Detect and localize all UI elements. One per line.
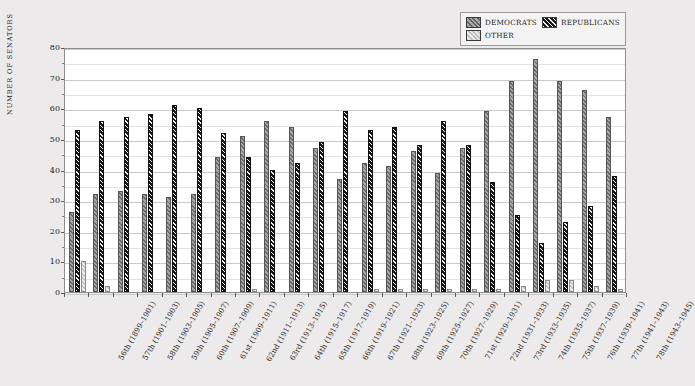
bar-dem[interactable] — [386, 166, 391, 292]
bar-dem[interactable] — [337, 179, 342, 292]
bar-rep[interactable] — [563, 222, 568, 292]
legend-item-democrats[interactable]: DEMOCRATS — [466, 17, 538, 28]
bar-group — [236, 49, 260, 292]
x-tick — [284, 293, 285, 297]
bar-oth[interactable] — [618, 289, 623, 292]
bar-dem[interactable] — [191, 194, 196, 292]
bar-dem[interactable] — [313, 148, 318, 292]
bar-oth[interactable] — [374, 289, 379, 292]
bar-group — [187, 49, 211, 292]
bar-dem[interactable] — [606, 117, 611, 292]
legend-row-primary: DEMOCRATS REPUBLICANS — [466, 17, 620, 28]
bar-oth[interactable] — [569, 280, 574, 292]
bar-dem[interactable] — [69, 212, 74, 292]
x-tick — [137, 293, 138, 297]
bar-oth[interactable] — [472, 289, 477, 292]
x-tick — [162, 293, 163, 297]
bar-oth[interactable] — [423, 289, 428, 292]
bar-dem[interactable] — [289, 127, 294, 292]
y-tick-label: 0 — [40, 289, 60, 297]
bar-dem[interactable] — [582, 90, 587, 292]
bar-dem[interactable] — [166, 197, 171, 292]
x-tick — [64, 293, 65, 297]
y-tick-label: 60 — [40, 105, 60, 113]
bar-oth[interactable] — [594, 286, 599, 292]
bar-rep[interactable] — [515, 215, 520, 292]
bar-group — [114, 49, 138, 292]
bar-dem[interactable] — [509, 81, 514, 292]
x-tick — [602, 293, 603, 297]
bar-oth[interactable] — [81, 261, 86, 292]
bar-rep[interactable] — [490, 182, 495, 292]
bar-dem[interactable] — [240, 136, 245, 292]
bar-rep[interactable] — [148, 114, 153, 292]
chart-legend: DEMOCRATS REPUBLICANS OTHER — [460, 12, 626, 46]
x-tick — [333, 293, 334, 297]
bar-rep[interactable] — [612, 176, 617, 292]
bar-oth[interactable] — [105, 286, 110, 292]
bar-group — [578, 49, 602, 292]
bar-dem[interactable] — [435, 173, 440, 292]
y-tick-label: 10 — [40, 258, 60, 266]
bar-rep[interactable] — [295, 163, 300, 292]
legend-item-republicans[interactable]: REPUBLICANS — [542, 17, 620, 28]
bar-dem[interactable] — [557, 81, 562, 292]
bar-group — [212, 49, 236, 292]
bar-oth[interactable] — [398, 289, 403, 292]
bar-dem[interactable] — [533, 59, 538, 292]
bar-dem[interactable] — [362, 163, 367, 292]
bar-oth[interactable] — [521, 286, 526, 292]
bar-group — [138, 49, 162, 292]
bar-dem[interactable] — [93, 194, 98, 292]
bar-dem[interactable] — [460, 148, 465, 292]
bar-rep[interactable] — [75, 130, 80, 292]
bar-rep[interactable] — [270, 170, 275, 293]
bar-rep[interactable] — [221, 133, 226, 292]
bar-oth[interactable] — [496, 289, 501, 292]
y-tick-label: 70 — [40, 75, 60, 83]
legend-label-republicans: REPUBLICANS — [561, 18, 620, 27]
legend-row-secondary: OTHER — [466, 30, 620, 41]
bar-dem[interactable] — [215, 157, 220, 292]
bar-rep[interactable] — [588, 206, 593, 292]
bar-group — [65, 49, 89, 292]
bar-dem[interactable] — [411, 151, 416, 292]
y-axis-title: NUMBER OF SENATORS — [6, 13, 14, 115]
bar-dem[interactable] — [142, 194, 147, 292]
bar-rep[interactable] — [466, 145, 471, 292]
bar-rep[interactable] — [368, 130, 373, 292]
bar-oth[interactable] — [252, 289, 257, 292]
bar-rep[interactable] — [197, 108, 202, 292]
y-tick-label: 50 — [40, 136, 60, 144]
legend-item-other[interactable]: OTHER — [466, 30, 514, 41]
bar-group — [554, 49, 578, 292]
bar-rep[interactable] — [343, 111, 348, 292]
x-tick — [528, 293, 529, 297]
bar-dem[interactable] — [264, 121, 269, 293]
bar-group — [505, 49, 529, 292]
bar-group — [480, 49, 504, 292]
bar-oth[interactable] — [545, 280, 550, 292]
bar-rep[interactable] — [392, 127, 397, 292]
bar-dem[interactable] — [484, 111, 489, 292]
bar-dem[interactable] — [118, 191, 123, 292]
y-tick-label: 40 — [40, 167, 60, 175]
bar-group — [260, 49, 284, 292]
x-tick — [308, 293, 309, 297]
bar-rep[interactable] — [246, 157, 251, 292]
bar-rep[interactable] — [319, 142, 324, 292]
x-tick — [259, 293, 260, 297]
bar-oth[interactable] — [447, 289, 452, 292]
bar-rep[interactable] — [99, 121, 104, 293]
bar-rep[interactable] — [124, 117, 129, 292]
x-tick — [382, 293, 383, 297]
x-tick — [455, 293, 456, 297]
bar-rep[interactable] — [539, 243, 544, 292]
bar-rep[interactable] — [172, 105, 177, 292]
bar-group — [285, 49, 309, 292]
x-tick — [406, 293, 407, 297]
bar-rep[interactable] — [417, 145, 422, 292]
bar-rep[interactable] — [441, 121, 446, 293]
y-tick-label: 20 — [40, 228, 60, 236]
